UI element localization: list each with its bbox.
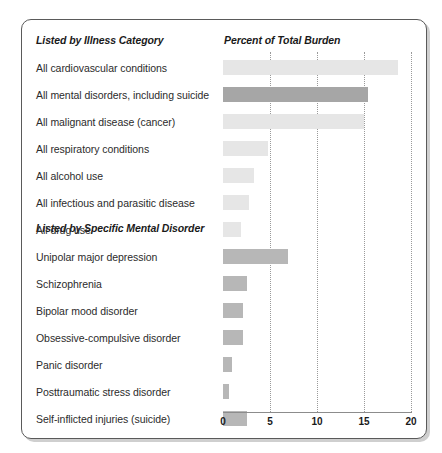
x-tick-0: 0	[220, 416, 226, 427]
row-label: All cardiovascular conditions	[36, 62, 167, 74]
bar	[223, 141, 268, 156]
gridline-5	[270, 52, 271, 412]
bar	[223, 114, 364, 129]
row-label: All mental disorders, including suicide	[36, 89, 209, 101]
bar	[223, 195, 249, 210]
row-label: All infectious and parasitic disease	[36, 197, 195, 209]
bar	[223, 222, 241, 237]
gridline-15	[364, 52, 365, 412]
x-tick-5: 5	[267, 416, 273, 427]
x-tick-20: 20	[405, 416, 416, 427]
bar	[223, 330, 243, 345]
bar	[223, 168, 254, 183]
row-label: All malignant disease (cancer)	[36, 116, 175, 128]
chart-figure: Listed by Illness Category Percent of To…	[0, 0, 442, 453]
bar	[223, 60, 398, 75]
x-tick-10: 10	[311, 416, 322, 427]
x-axis-line	[223, 412, 412, 413]
bar	[223, 411, 247, 426]
bar	[223, 249, 288, 264]
row-label: Schizophrenia	[36, 278, 102, 290]
header-percent-of-total-burden: Percent of Total Burden	[224, 34, 340, 46]
gridline-10	[317, 52, 318, 412]
bar	[223, 303, 243, 318]
x-tick-15: 15	[358, 416, 369, 427]
bar	[223, 357, 232, 372]
row-label: All respiratory conditions	[36, 143, 149, 155]
bar	[223, 384, 229, 399]
gridlines	[223, 52, 411, 412]
chart-card: Listed by Illness Category Percent of To…	[21, 19, 427, 439]
header-illness-category: Listed by Illness Category	[36, 34, 164, 46]
row-label: Obsessive-compulsive disorder	[36, 332, 180, 344]
bar	[223, 87, 368, 102]
row-label: Posttraumatic stress disorder	[36, 386, 171, 398]
row-label: All drug use	[36, 224, 91, 236]
row-label: Self-inflicted injuries (suicide)	[36, 413, 170, 425]
gridline-20	[411, 52, 412, 412]
row-label: Bipolar mood disorder	[36, 305, 138, 317]
row-label: Panic disorder	[36, 359, 102, 371]
bar	[223, 276, 247, 291]
row-label: All alcohol use	[36, 170, 103, 182]
row-label: Unipolar major depression	[36, 251, 157, 263]
